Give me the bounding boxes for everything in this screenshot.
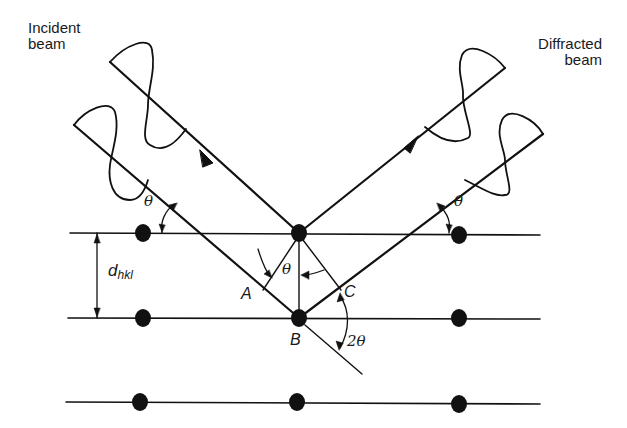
diffracted-beam-label-line2: beam <box>512 52 602 68</box>
two-theta-label: 2θ <box>347 334 366 350</box>
atom <box>135 309 151 327</box>
atom <box>291 309 307 327</box>
incident-beam-label: Incident beam <box>28 20 81 52</box>
diffracted-wave-inner <box>425 49 505 141</box>
d-spacing-arrow-down-icon <box>94 308 100 317</box>
diffracted-arrow-icon <box>404 136 418 153</box>
atom <box>291 224 307 242</box>
theta-arc-left-arrow2-icon <box>159 224 165 232</box>
incident-beam-inner <box>110 62 299 233</box>
d-spacing-label: dhkl <box>108 262 133 282</box>
perpendicular-to-c <box>303 240 341 290</box>
incident-beam-outer <box>74 125 299 318</box>
atom <box>132 393 148 411</box>
theta-arc-center-arrow-icon <box>301 271 309 279</box>
atom <box>135 224 151 242</box>
d-spacing-arrow-up-icon <box>94 234 100 243</box>
incident-wave-outer <box>74 106 148 200</box>
atom <box>451 395 467 413</box>
atom <box>451 226 467 244</box>
atom <box>289 393 305 411</box>
theta-label-center: θ <box>282 262 291 278</box>
point-a-label: A <box>241 286 252 303</box>
atom <box>451 309 467 327</box>
theta-label-left: θ <box>144 194 153 210</box>
incident-beam-label-line2: beam <box>28 36 81 52</box>
diffracted-beam-outer <box>299 134 543 318</box>
theta-arc-left-arrow-icon <box>169 203 177 211</box>
theta-label-right: θ <box>454 194 463 210</box>
diffracted-beam-inner <box>299 68 505 233</box>
theta-arc-right-arrow2-icon <box>446 224 452 232</box>
d-spacing-subscript: hkl <box>117 268 132 282</box>
perpendicular-to-a <box>263 240 296 290</box>
incident-beam-label-line1: Incident <box>28 20 81 36</box>
theta-arc-a-arrow-icon <box>264 270 272 278</box>
point-c-label: C <box>344 284 356 301</box>
point-b-label: B <box>290 332 301 349</box>
incident-wave-inner <box>110 43 186 149</box>
diffracted-beam-label: Diffracted beam <box>512 36 602 68</box>
diffracted-beam-label-line1: Diffracted <box>512 36 602 52</box>
